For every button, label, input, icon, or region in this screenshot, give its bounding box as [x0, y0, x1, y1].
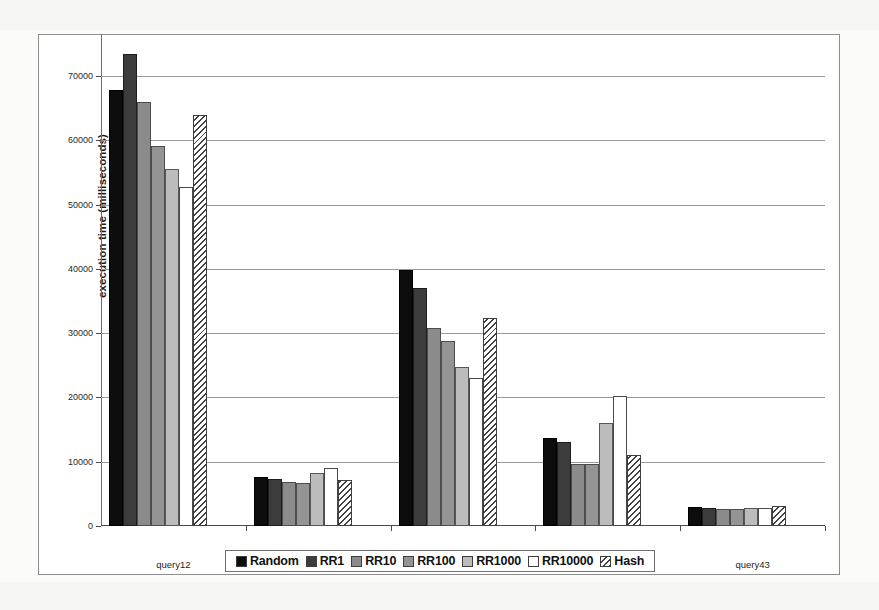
- legend-swatch-icon-rr1000: [462, 556, 473, 567]
- legend-swatch-icon-rr100: [403, 556, 414, 567]
- legend-label: RR10: [365, 554, 396, 568]
- legend-swatch-icon-rr1: [306, 556, 317, 567]
- legend-label: RR1000: [476, 554, 521, 568]
- legend-swatch-icon-rr10000: [528, 556, 539, 567]
- x-axis-label-query12: query12: [156, 559, 190, 570]
- y-axis-tick-label: 10000: [68, 457, 93, 467]
- y-axis-tick-label: 60000: [68, 135, 93, 145]
- legend-swatch-icon-hash: [600, 556, 611, 567]
- legend-label: RR100: [417, 554, 455, 568]
- legend-item-hash[interactable]: Hash: [600, 554, 644, 568]
- legend-item-rr10000[interactable]: RR10000: [528, 554, 593, 568]
- x-axis-label-query43: query43: [735, 559, 769, 570]
- x-axis-tick: [825, 526, 826, 531]
- legend-label: RR10000: [542, 554, 593, 568]
- x-axis-category-labels: query12query17query24query25query43: [101, 35, 825, 574]
- legend-label: Random: [250, 554, 299, 568]
- legend-item-rr1000[interactable]: RR1000: [462, 554, 521, 568]
- legend-swatch-icon-rr10: [351, 556, 362, 567]
- y-axis-tick-label: 0: [88, 521, 93, 531]
- legend-item-rr1[interactable]: RR1: [306, 554, 344, 568]
- y-axis-tick-label: 40000: [68, 264, 93, 274]
- legend-swatch-icon-random: [236, 556, 247, 567]
- legend-item-rr10[interactable]: RR10: [351, 554, 396, 568]
- y-axis-tick-label: 70000: [68, 71, 93, 81]
- y-axis-tick-label: 20000: [68, 392, 93, 402]
- y-axis-tick-label: 30000: [68, 328, 93, 338]
- legend-label: Hash: [614, 554, 644, 568]
- legend-item-rr100[interactable]: RR100: [403, 554, 455, 568]
- scanned-page: execution time (milliseconds) 0100002000…: [0, 0, 879, 610]
- legend-label: RR1: [320, 554, 344, 568]
- legend-item-random[interactable]: Random: [236, 554, 299, 568]
- chart-legend: RandomRR1RR10RR100RR1000RR10000Hash: [225, 550, 655, 572]
- chart-figure: execution time (milliseconds) 0100002000…: [38, 34, 840, 575]
- y-axis-tick-label: 50000: [68, 200, 93, 210]
